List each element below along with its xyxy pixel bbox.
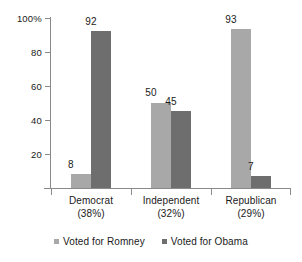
bar-independent-obama[interactable] xyxy=(171,111,191,188)
x-category-independent: Independent (32%) xyxy=(126,195,216,220)
bar-independent-romney[interactable] xyxy=(151,103,171,189)
bar-republican-obama[interactable] xyxy=(251,176,271,188)
data-label-republican-romney: 93 xyxy=(216,15,246,25)
legend-item-romney[interactable]: Voted for Romney xyxy=(54,236,145,247)
y-tick-label-60: 60 xyxy=(0,82,42,92)
data-label-democrat-romney: 8 xyxy=(56,160,86,170)
y-tick-label-80: 80 xyxy=(0,48,42,58)
x-category-republican-name: Republican xyxy=(225,195,276,206)
x-category-democrat: Democrat (38%) xyxy=(46,195,136,220)
legend-swatch-icon-romney xyxy=(54,239,59,244)
legend-swatch-icon-obama xyxy=(162,239,167,244)
data-label-democrat-obama: 92 xyxy=(76,17,106,27)
legend-label-romney: Voted for Romney xyxy=(63,236,145,247)
x-axis-line xyxy=(44,188,291,189)
y-tick-label-40: 40 xyxy=(0,116,42,126)
x-category-independent-name: Independent xyxy=(143,195,200,206)
legend-label-obama: Voted for Obama xyxy=(171,236,248,247)
bar-chart: 100% 80 60 40 20 8 92 50 45 93 7 Democra… xyxy=(0,0,302,262)
legend-item-obama[interactable]: Voted for Obama xyxy=(162,236,248,247)
y-tick-label-20: 20 xyxy=(0,150,42,160)
bar-democrat-obama[interactable] xyxy=(91,31,111,188)
x-category-republican: Republican (29%) xyxy=(206,195,296,220)
x-category-republican-share: (29%) xyxy=(206,208,296,221)
data-label-republican-obama: 7 xyxy=(236,162,266,172)
bar-democrat-romney[interactable] xyxy=(71,174,91,188)
x-category-independent-share: (32%) xyxy=(126,208,216,221)
x-category-democrat-name: Democrat xyxy=(69,195,113,206)
data-label-independent-obama: 45 xyxy=(156,97,186,107)
x-category-democrat-share: (38%) xyxy=(46,208,136,221)
chart-legend: Voted for Romney Voted for Obama xyxy=(0,236,302,247)
y-tick-label-100: 100% xyxy=(0,14,42,24)
